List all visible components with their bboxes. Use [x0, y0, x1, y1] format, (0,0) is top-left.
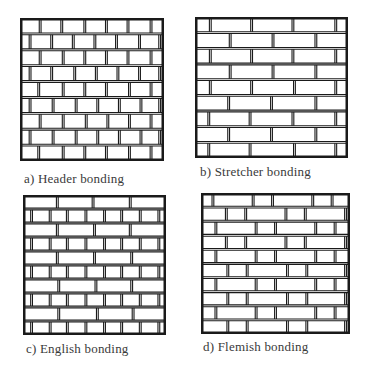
- caption-header-bonding: a) Header bonding: [24, 171, 124, 187]
- flemish-bonding-wall-diagram: [201, 193, 350, 334]
- caption-english-bonding: c) English bonding: [26, 341, 129, 357]
- header-bonding-wall-diagram: [20, 18, 164, 161]
- caption-stretcher-bonding: b) Stretcher bonding: [200, 164, 311, 180]
- stretcher-bonding-wall-diagram: [195, 17, 348, 158]
- caption-flemish-bonding: d) Flemish bonding: [203, 339, 308, 355]
- english-bonding-wall-diagram: [23, 195, 166, 335]
